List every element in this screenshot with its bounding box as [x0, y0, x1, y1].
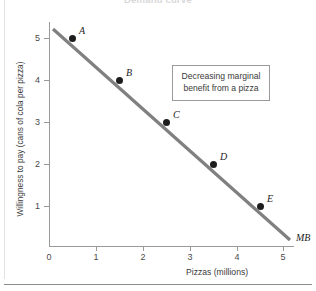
figure-bottom-rule: [4, 284, 312, 285]
data-point-a[interactable]: [69, 35, 76, 42]
y-tick-label-5: 5: [26, 33, 40, 43]
x-tick-label-0: 0: [39, 252, 59, 262]
annotation-box: Decreasing marginal benefit from a pizza: [172, 65, 270, 101]
data-point-c[interactable]: [163, 119, 170, 126]
data-point-label-c: C: [173, 109, 180, 120]
y-tick-label-4: 4: [26, 75, 40, 85]
data-point-e[interactable]: [257, 203, 264, 210]
y-axis-line: [49, 22, 50, 246]
x-tick-3: [190, 246, 191, 251]
data-point-label-b: B: [126, 67, 132, 78]
figure-title: Demand curve: [0, 0, 316, 5]
x-tick-label-5: 5: [273, 252, 293, 262]
x-axis-line: [49, 246, 294, 247]
x-tick-label-4: 4: [227, 252, 247, 262]
data-point-b[interactable]: [116, 77, 123, 84]
x-tick-4: [237, 246, 238, 251]
y-tick-3: [44, 122, 49, 123]
y-tick-label-3: 3: [26, 117, 40, 127]
x-tick-2: [143, 246, 144, 251]
y-tick-2: [44, 164, 49, 165]
figure-left-rule: [4, 0, 5, 279]
y-tick-5: [44, 38, 49, 39]
figure-container: Demand curve 5 4 3 2 1 0 1 2 3 4 5 Willi…: [0, 0, 316, 291]
y-tick-label-2: 2: [26, 159, 40, 169]
x-tick-label-2: 2: [133, 252, 153, 262]
data-point-label-d: D: [220, 151, 227, 162]
data-point-label-e: E: [267, 193, 273, 204]
y-axis-label: Willingness to pay (cans of cola per piz…: [15, 39, 25, 239]
curve-label-mb: MB: [296, 232, 310, 243]
x-tick-label-1: 1: [86, 252, 106, 262]
y-tick-1: [44, 206, 49, 207]
marginal-benefit-line: [0, 0, 316, 291]
x-tick-1: [96, 246, 97, 251]
data-point-d[interactable]: [210, 161, 217, 168]
data-point-label-a: A: [79, 25, 85, 36]
y-tick-label-1: 1: [26, 201, 40, 211]
x-tick-label-3: 3: [180, 252, 200, 262]
y-tick-4: [44, 80, 49, 81]
x-axis-label: Pizzas (millions): [186, 267, 248, 277]
x-tick-5: [283, 246, 284, 251]
